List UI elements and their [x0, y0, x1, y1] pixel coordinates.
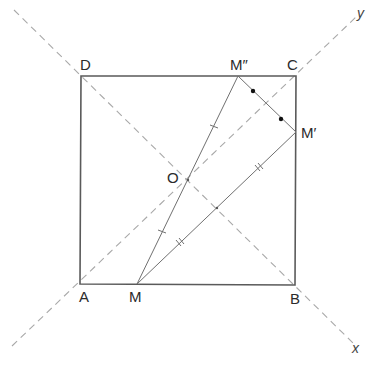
figure-canvas	[0, 0, 373, 366]
label-axis-y: y	[357, 6, 364, 20]
intersection-point	[216, 207, 218, 209]
point-o	[187, 179, 189, 181]
geometry-figure: D C M″ M′ O A M B y x	[0, 0, 373, 366]
label-m: M	[129, 289, 142, 304]
label-d: D	[80, 57, 91, 72]
label-c: C	[287, 57, 298, 72]
label-a: A	[79, 289, 89, 304]
axis-y-line	[12, 17, 356, 346]
label-b: B	[290, 291, 300, 306]
label-axis-x: x	[352, 341, 359, 355]
label-m2: M″	[230, 57, 248, 72]
label-o: O	[167, 170, 179, 185]
label-m1: M′	[301, 125, 316, 140]
segment-m2-m1	[238, 76, 296, 132]
axis-x-line	[14, 10, 353, 343]
